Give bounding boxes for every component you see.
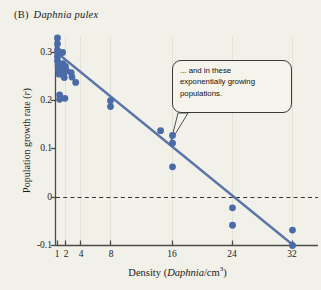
data-point	[229, 222, 236, 229]
data-point	[72, 79, 79, 86]
annotation-callout: ... and in these exponentially growing p…	[172, 60, 292, 113]
data-point	[229, 204, 236, 211]
data-point	[169, 132, 176, 139]
data-point	[107, 103, 114, 110]
data-point	[289, 242, 296, 249]
data-point	[61, 74, 68, 81]
annotation-line-1: ... and in these	[180, 65, 285, 76]
annotation-line-3: populations.	[180, 88, 285, 99]
data-point	[62, 95, 69, 102]
data-point	[169, 140, 176, 147]
plot-area	[0, 0, 321, 290]
data-point	[169, 163, 176, 170]
data-point	[59, 49, 66, 56]
x-tick-marks	[58, 241, 293, 246]
data-point	[54, 40, 61, 47]
data-point	[157, 127, 164, 134]
data-point	[289, 227, 296, 234]
annotation-line-2: exponentially growing	[180, 76, 285, 87]
y-tick-marks	[51, 53, 56, 246]
figure-panel: (B)Daphnia pulex Population growth rate …	[0, 0, 321, 290]
data-point	[54, 35, 61, 42]
data-point	[107, 97, 114, 104]
